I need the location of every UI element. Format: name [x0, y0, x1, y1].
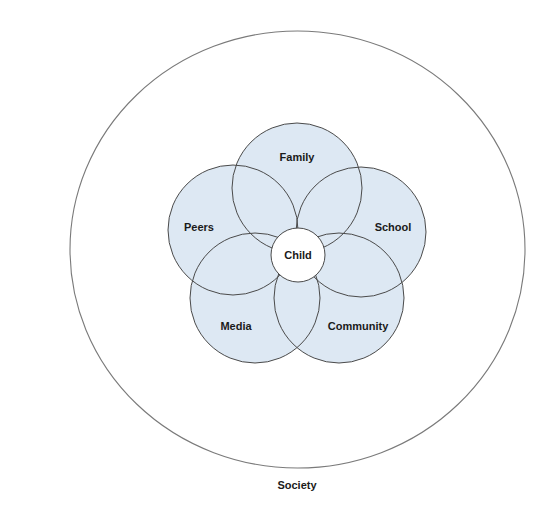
community-label: Community [328, 320, 389, 332]
family-label: Family [280, 151, 316, 163]
school-label: School [375, 221, 412, 233]
society-label: Society [277, 479, 317, 491]
child-label: Child [284, 249, 312, 261]
ecological-diagram: Family School Community Media Peers Chil… [0, 0, 550, 517]
media-label: Media [220, 320, 252, 332]
peers-label: Peers [184, 221, 214, 233]
